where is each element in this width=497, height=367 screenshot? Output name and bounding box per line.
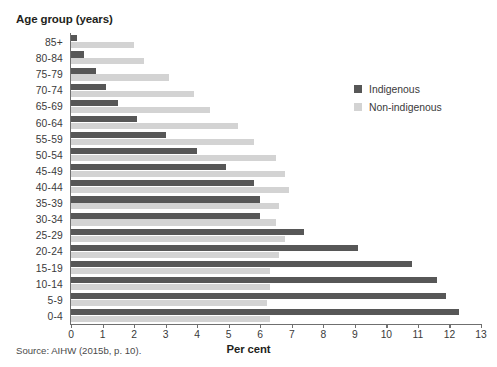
chart-row: 85+	[0, 34, 497, 50]
bar-indigenous-55-59	[71, 132, 166, 138]
y-axis-category-label: 20-24	[36, 246, 63, 257]
y-axis-category-75-79: 75-79	[0, 66, 70, 82]
bar-indigenous-60-64	[71, 116, 137, 122]
bar-non-indigenous-65-69	[71, 107, 210, 113]
x-axis-tick-2	[134, 324, 135, 328]
chart-legend: Indigenous Non-indigenous	[354, 80, 442, 116]
legend-label-indigenous: Indigenous	[369, 84, 420, 95]
y-axis-category-10-14: 10-14	[0, 276, 70, 292]
y-axis-category-label: 5-9	[48, 294, 63, 305]
y-axis-category-label: 10-14	[36, 278, 63, 289]
chart-row: 5-9	[0, 292, 497, 308]
chart-row: 55-59	[0, 131, 497, 147]
y-axis-category-30-34: 30-34	[0, 211, 70, 227]
x-axis-tick-label-6: 6	[257, 329, 263, 340]
bar-non-indigenous-30-34	[71, 219, 276, 225]
y-axis-category-60-64: 60-64	[0, 115, 70, 131]
bar-non-indigenous-70-74	[71, 91, 194, 97]
y-axis-category-50-54: 50-54	[0, 147, 70, 163]
x-axis-tick-8	[323, 324, 324, 328]
bar-indigenous-35-39	[71, 196, 260, 202]
x-axis-tick-13	[481, 324, 482, 328]
bar-non-indigenous-15-19	[71, 268, 270, 274]
legend-swatch-indigenous-icon	[354, 85, 362, 93]
x-axis-tick-5	[229, 324, 230, 328]
y-axis-category-label: 40-44	[36, 182, 63, 193]
bar-non-indigenous-5-9	[71, 300, 267, 306]
legend-item-indigenous: Indigenous	[354, 80, 442, 98]
bar-indigenous-85+	[71, 35, 77, 41]
bar-indigenous-70-74	[71, 84, 106, 90]
y-axis-title: Age group (years)	[16, 13, 113, 25]
x-axis-tick-label-0: 0	[68, 329, 74, 340]
y-axis-category-label: 15-19	[36, 262, 63, 273]
y-axis-category-label: 75-79	[36, 69, 63, 80]
bar-non-indigenous-85+	[71, 42, 134, 48]
y-axis-category-label: 60-64	[36, 117, 63, 128]
y-axis-category-70-74: 70-74	[0, 82, 70, 98]
y-axis-category-20-24: 20-24	[0, 243, 70, 259]
chart-row: 0-4	[0, 308, 497, 324]
chart-row: 20-24	[0, 243, 497, 259]
x-axis-tick-9	[355, 324, 356, 328]
x-axis-tick-label-7: 7	[289, 329, 295, 340]
x-axis-tick-label-1: 1	[100, 329, 106, 340]
y-axis-category-label: 80-84	[36, 53, 63, 64]
y-axis-category-5-9: 5-9	[0, 292, 70, 308]
bar-indigenous-5-9	[71, 293, 446, 299]
y-axis-category-label: 65-69	[36, 101, 63, 112]
x-axis-line	[70, 324, 482, 325]
chart-row: 10-14	[0, 276, 497, 292]
chart-row: 30-34	[0, 211, 497, 227]
y-axis-category-label: 70-74	[36, 85, 63, 96]
x-axis-tick-label-13: 13	[475, 329, 486, 340]
x-axis-tick-4	[197, 324, 198, 328]
bar-indigenous-20-24	[71, 245, 358, 251]
bar-non-indigenous-10-14	[71, 284, 270, 290]
y-axis-category-label: 85+	[45, 37, 63, 48]
x-axis-tick-label-4: 4	[194, 329, 200, 340]
y-axis-category-40-44: 40-44	[0, 179, 70, 195]
y-axis-category-85+: 85+	[0, 34, 70, 50]
bar-indigenous-80-84	[71, 51, 84, 57]
bar-indigenous-45-49	[71, 164, 226, 170]
x-axis-tick-label-2: 2	[131, 329, 137, 340]
y-axis-category-45-49: 45-49	[0, 163, 70, 179]
bar-non-indigenous-0-4	[71, 316, 270, 322]
bar-non-indigenous-75-79	[71, 74, 169, 80]
x-axis-tick-label-5: 5	[226, 329, 232, 340]
x-axis-tick-1	[103, 324, 104, 328]
bar-indigenous-10-14	[71, 277, 437, 283]
chart-row: 50-54	[0, 147, 497, 163]
legend-swatch-non-indigenous-icon	[354, 103, 362, 111]
chart-row: 60-64	[0, 115, 497, 131]
bar-indigenous-40-44	[71, 180, 254, 186]
x-axis-tick-6	[260, 324, 261, 328]
y-axis-category-65-69: 65-69	[0, 98, 70, 114]
chart-row: 15-19	[0, 260, 497, 276]
bar-non-indigenous-35-39	[71, 203, 279, 209]
legend-item-non-indigenous: Non-indigenous	[354, 98, 442, 116]
x-axis-tick-label-11: 11	[413, 329, 424, 340]
y-axis-category-label: 25-29	[36, 230, 63, 241]
chart-row: 40-44	[0, 179, 497, 195]
bar-non-indigenous-20-24	[71, 252, 279, 258]
x-axis-tick-label-8: 8	[320, 329, 326, 340]
x-axis-tick-label-3: 3	[163, 329, 169, 340]
bar-indigenous-75-79	[71, 68, 96, 74]
chart-row: 45-49	[0, 163, 497, 179]
x-axis-tick-11	[418, 324, 419, 328]
x-axis-tick-0	[71, 324, 72, 328]
bar-indigenous-15-19	[71, 261, 412, 267]
bar-indigenous-30-34	[71, 213, 260, 219]
bar-indigenous-0-4	[71, 309, 459, 315]
bar-non-indigenous-40-44	[71, 187, 289, 193]
bar-non-indigenous-25-29	[71, 236, 285, 242]
bar-indigenous-50-54	[71, 148, 197, 154]
x-axis-tick-10	[386, 324, 387, 328]
chart-row: 35-39	[0, 195, 497, 211]
legend-label-non-indigenous: Non-indigenous	[369, 102, 442, 113]
x-axis-tick-12	[449, 324, 450, 328]
y-axis-category-label: 45-49	[36, 165, 63, 176]
y-axis-category-label: 50-54	[36, 149, 63, 160]
